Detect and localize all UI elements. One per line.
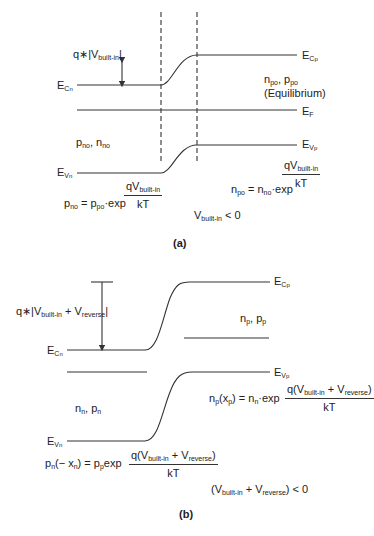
label-E-Cn-a: ECn (57, 80, 73, 92)
label-E-Vp-b: EVp (274, 367, 289, 379)
label-E-F-a: EF (302, 106, 314, 118)
caption-a: (a) (173, 237, 186, 249)
condition-a: Vbuilt-in < 0 (194, 210, 241, 222)
label-E-Vn-b: EVn (47, 436, 62, 448)
condition-b: (Vbuilt-in + Vreverse) < 0 (211, 484, 308, 496)
equation-left-a: pno = ppo·exp (64, 198, 126, 210)
label-E-Vn-a: EVn (57, 167, 72, 179)
label-E-Cp-a: ECp (302, 50, 318, 62)
equation-left-b: pn(− xn) = ppexp (45, 458, 122, 470)
label-E-Vp-a: EVp (302, 139, 317, 151)
fraction-left-a: qVbuilt-in kT (124, 181, 162, 210)
fraction-right-a: qVbuilt-in kT (282, 160, 320, 189)
equilibrium-label-a: (Equilibrium) (264, 88, 326, 99)
p-side-carriers-b: np, pp (240, 313, 266, 325)
fraction-right-b: q(Vbuilt-in + Vreverse) kT (285, 384, 374, 413)
n-side-carriers-b: nn, pn (75, 403, 101, 415)
p-side-carriers-a: npo, ppo (264, 74, 298, 86)
label-E-Cn-b: ECn (47, 345, 63, 357)
caption-b: (b) (179, 508, 193, 520)
barrier-label-a: q∗|Vbuilt-in| (73, 49, 122, 61)
valence-band-a (77, 145, 297, 173)
fraction-left-b: q(Vbuilt-in + Vreverse) kT (129, 450, 218, 479)
equation-right-b: np(xp) = nn·exp (209, 393, 280, 405)
barrier-label-b: q∗|Vbuilt-in + Vreverse| (16, 306, 108, 318)
n-side-carriers-a: pno, nno (76, 137, 110, 149)
label-E-Cp-b: ECp (274, 276, 290, 288)
